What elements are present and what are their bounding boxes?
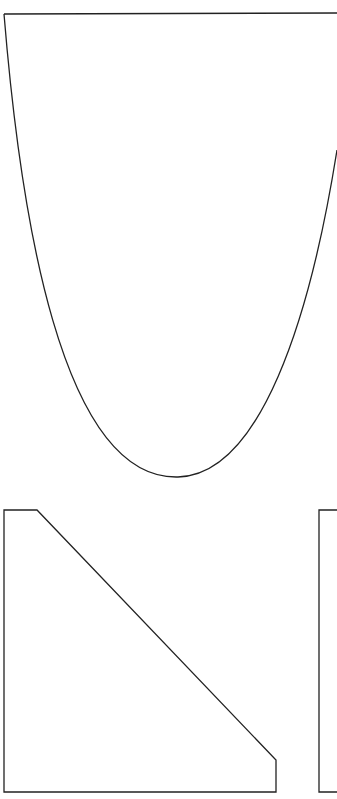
- partial-rectangle-shape: [319, 510, 337, 792]
- chamfered-trapezoid-shape: [4, 510, 276, 792]
- parabola-cup-shape: [4, 13, 337, 477]
- diagram-canvas: [0, 0, 337, 799]
